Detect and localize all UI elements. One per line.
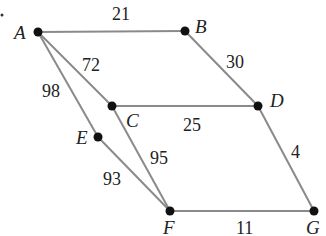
edge-weight-E-F: 93 xyxy=(103,169,121,189)
node-F xyxy=(166,207,175,216)
node-label-B: B xyxy=(195,16,207,37)
edge-weight-D-G: 4 xyxy=(291,142,300,162)
edge-weight-A-C: 72 xyxy=(82,55,100,75)
node-D xyxy=(254,102,263,111)
graph-edges xyxy=(38,31,314,211)
node-A xyxy=(34,28,43,37)
edge-weight-A-E: 98 xyxy=(42,81,60,101)
edge-weight-C-D: 25 xyxy=(183,115,201,135)
edge-weight-B-D: 30 xyxy=(226,52,244,72)
edge-B-D xyxy=(185,31,258,106)
node-C xyxy=(108,102,117,111)
edge-weight-C-F: 95 xyxy=(150,148,168,168)
edge-A-B xyxy=(38,31,185,32)
node-label-C: C xyxy=(126,110,139,131)
edge-weight-F-G: 11 xyxy=(236,218,253,236)
node-label-E: E xyxy=(75,127,88,148)
edge-weight-A-B: 21 xyxy=(112,4,130,24)
edge-D-G xyxy=(258,106,314,211)
node-label-G: G xyxy=(306,217,320,236)
node-label-A: A xyxy=(12,22,26,43)
node-label-D: D xyxy=(269,90,284,111)
weighted-graph-diagram: 21729830259593411 ABCDEFG xyxy=(0,0,326,236)
node-G xyxy=(310,207,319,216)
stray-dot xyxy=(1,14,4,17)
node-E xyxy=(94,133,103,142)
edge-weight-labels: 21729830259593411 xyxy=(42,4,300,236)
node-B xyxy=(181,27,190,36)
graph-nodes xyxy=(34,27,319,216)
node-label-F: F xyxy=(162,217,175,236)
